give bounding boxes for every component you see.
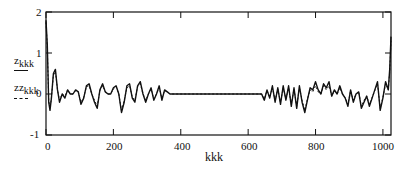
series-label-zz-sub: kkk bbox=[24, 85, 39, 96]
y-tick-label-2: 2 bbox=[36, 7, 42, 18]
legend-dashed-line bbox=[14, 98, 28, 99]
series-label-z: zkkk bbox=[14, 55, 34, 69]
line-chart: 2 1 0 -1 0 200 400 600 800 1000 kkk zkkk… bbox=[0, 0, 408, 171]
x-axis-label: kkk bbox=[205, 150, 223, 165]
series-label-zz-base: zz bbox=[14, 81, 24, 93]
series-label-z-sub: kkk bbox=[19, 58, 34, 69]
series-line-zz-kkk bbox=[46, 22, 391, 110]
x-tick-label-1000: 1000 bbox=[372, 141, 394, 152]
x-tick-label-200: 200 bbox=[106, 141, 123, 152]
plot-frame bbox=[46, 12, 391, 135]
x-tick-label-400: 400 bbox=[174, 141, 191, 152]
series-line-z-kkk bbox=[46, 20, 391, 112]
x-tick-label-600: 600 bbox=[241, 141, 258, 152]
x-tick-label-0: 0 bbox=[45, 141, 51, 152]
legend-solid-line bbox=[14, 70, 28, 71]
x-tick-label-800: 800 bbox=[308, 141, 325, 152]
series-label-zz: zzkkk bbox=[14, 82, 39, 96]
y-tick-label-neg1: -1 bbox=[30, 129, 39, 140]
y-tick-label-1: 1 bbox=[36, 48, 42, 59]
plot-area bbox=[0, 0, 408, 171]
